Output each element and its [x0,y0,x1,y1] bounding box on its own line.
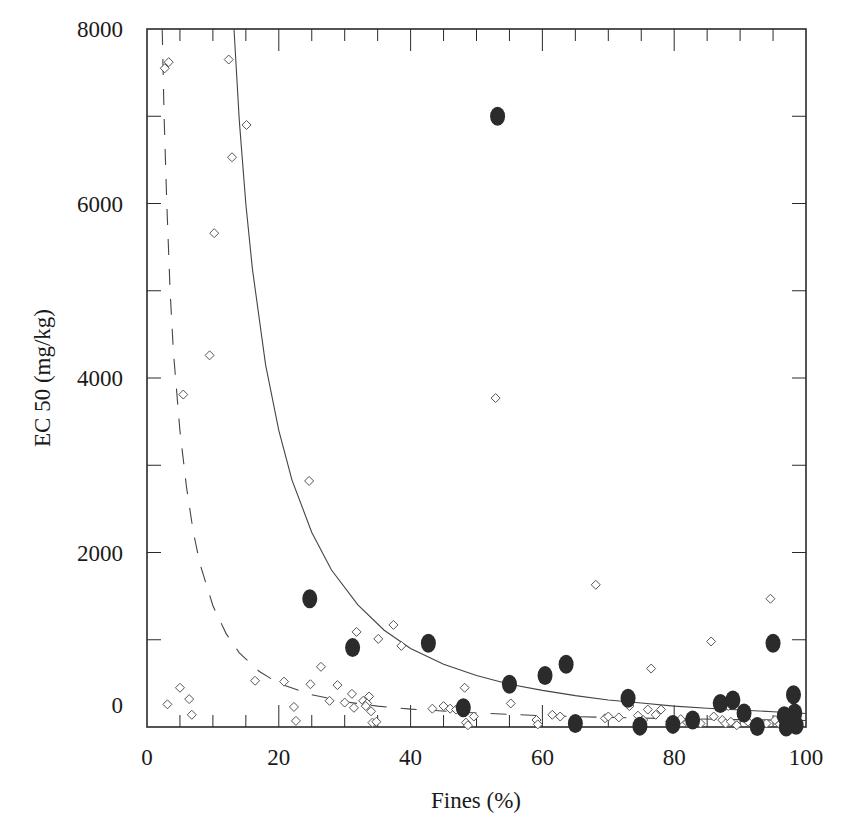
filled-circle-point [302,589,317,608]
diamond-point [506,699,515,708]
filled-circle-point [538,666,553,685]
axis-ticks [147,29,806,727]
filled-circle-point [713,694,728,713]
filled-circle-point [750,717,765,736]
diamond-point [591,580,600,589]
diamond-point [333,681,342,690]
plot-frame [147,29,806,727]
diamond-point [469,712,478,721]
diamond-point [349,703,358,712]
diamond-point [397,641,406,650]
diamond-point [289,702,298,711]
diamond-point [548,710,557,719]
diamond-point [352,627,361,636]
x-tick-label: 100 [789,745,824,770]
y-tick-label: 2000 [77,541,123,566]
diamond-point [614,713,623,722]
diamond-point [242,120,251,129]
diamond-point [340,698,349,707]
diamond-point [707,637,716,646]
x-tick-label: 0 [141,745,153,770]
filled-circle-point [685,711,700,730]
fit-curves [162,29,806,721]
scatter-chart: 020406080100 02000400060008000 Fines (%)… [0,0,851,836]
filled-circle-point [766,634,781,653]
diamond-point [175,683,184,692]
diamond-point [460,683,469,692]
plot-border [147,29,806,727]
diamond-point [316,662,325,671]
diamond-point [347,689,356,698]
x-tick-labels: 020406080100 [141,745,823,770]
dashed-fit-curve [162,29,806,721]
y-tick-label: 4000 [77,366,123,391]
filled-circle-point [665,715,680,734]
y-tick-label: 0 [112,693,124,718]
filled-circle-point [632,717,647,736]
filled-circle-point [737,704,752,723]
y-tick-label: 6000 [77,192,123,217]
filled-circle-point [779,718,794,737]
filled-circle-point [421,634,436,653]
diamond-point [210,229,219,238]
diamond-point [306,680,315,689]
x-tick-label: 80 [663,745,686,770]
filled-circle-point [621,689,636,708]
diamond-point [205,351,214,360]
diamond-point [766,594,775,603]
diamond-point [163,700,172,709]
diamond-point [291,716,300,725]
filled-circle-point [725,690,740,709]
diamond-point [643,705,652,714]
x-tick-label: 20 [267,745,290,770]
diamond-point [224,55,233,64]
diamond-point [179,390,188,399]
open-diamond-points [160,55,792,730]
diamond-point [556,712,565,721]
diamond-point [251,676,260,685]
diamond-point [428,704,437,713]
diamond-point [187,710,196,719]
filled-circle-point [345,638,360,657]
diamond-point [389,620,398,629]
x-tick-label: 40 [399,745,422,770]
diamond-point [647,664,656,673]
diamond-point [185,695,194,704]
diamond-point [374,634,383,643]
diamond-point [280,677,289,686]
x-tick-label: 60 [531,745,554,770]
diamond-point [491,394,500,403]
y-axis-title: EC 50 (mg/kg) [30,309,55,447]
filled-circle-point [502,675,517,694]
filled-circle-point [490,107,505,126]
y-tick-label: 8000 [77,17,123,42]
y-tick-labels: 02000400060008000 [77,17,123,718]
filled-circle-point [568,714,583,733]
filled-circle-point [456,698,471,717]
x-axis-title: Fines (%) [431,788,521,813]
diamond-point [228,153,237,162]
filled-circle-point [559,655,574,674]
filled-circle-point [786,685,801,704]
diamond-point [305,476,314,485]
solid-fit-curve [234,29,806,714]
